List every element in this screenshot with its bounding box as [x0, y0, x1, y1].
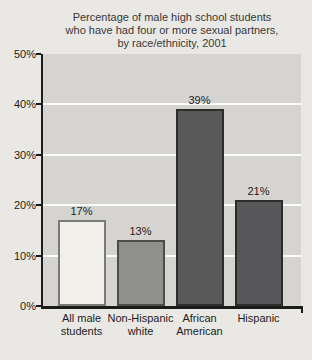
bar-all-male-students: [58, 220, 106, 306]
y-tick-mark-50: [36, 53, 41, 55]
bar-value-label: 21%: [229, 185, 289, 197]
y-axis-line: [41, 54, 44, 309]
gridline-30: [43, 154, 301, 156]
y-tick-mark-40: [36, 103, 41, 105]
x-category-label: Hispanic: [214, 312, 304, 325]
bar-hispanic: [235, 200, 283, 306]
bar-african-american: [176, 109, 224, 306]
y-tick-label-30: 30%: [0, 149, 36, 161]
bar-value-label: 39%: [170, 94, 230, 106]
y-tick-label-10: 10%: [0, 250, 36, 262]
y-tick-label-40: 40%: [0, 98, 36, 110]
y-tick-mark-10: [36, 255, 41, 257]
chart-title: Percentage of male high school students …: [32, 11, 312, 50]
bar-value-label: 13%: [111, 225, 171, 237]
plot-area: 17%13%39%21%: [43, 54, 301, 306]
y-tick-mark-30: [36, 154, 41, 156]
bar-value-label: 17%: [52, 205, 112, 217]
y-tick-label-50: 50%: [0, 48, 36, 60]
y-tick-label-20: 20%: [0, 199, 36, 211]
bar-chart-figure: Percentage of male high school students …: [0, 0, 312, 360]
y-tick-mark-20: [36, 204, 41, 206]
y-tick-mark-0: [36, 305, 41, 307]
y-tick-label-0: 0%: [0, 300, 36, 312]
bar-non-hispanic-white: [117, 240, 165, 306]
x-axis-line: [41, 306, 304, 309]
